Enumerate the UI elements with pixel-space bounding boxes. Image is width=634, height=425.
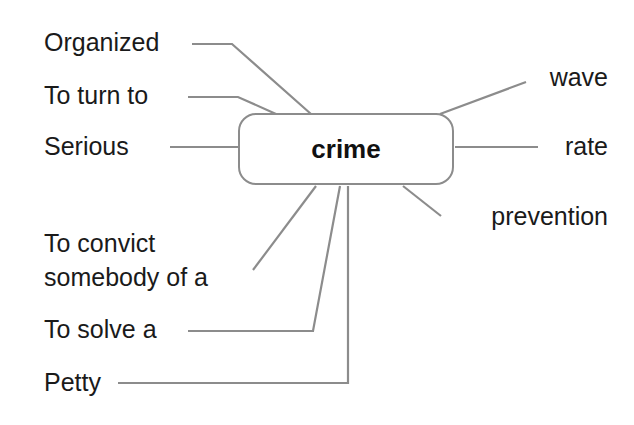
label-petty: Petty [44, 367, 101, 397]
label-convict-line2: somebody of a [44, 262, 208, 292]
label-prevention: prevention [491, 201, 608, 231]
label-rate: rate [565, 131, 608, 161]
label-wave: wave [550, 62, 608, 92]
label-organized: Organized [44, 27, 159, 57]
label-convict-line1: To convict [44, 228, 155, 258]
connector-wave [440, 82, 526, 114]
label-turn-to: To turn to [44, 80, 148, 110]
connector-prevention [403, 186, 441, 216]
connector-convict [253, 186, 316, 270]
connector-solve [188, 186, 340, 331]
label-solve: To solve a [44, 314, 157, 344]
center-node: crime [238, 113, 454, 185]
label-serious: Serious [44, 131, 129, 161]
mind-map: crime Organized To turn to Serious To co… [0, 0, 634, 425]
connector-turn-to [188, 97, 276, 114]
